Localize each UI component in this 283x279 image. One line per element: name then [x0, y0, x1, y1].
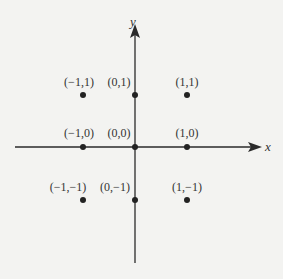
point-label: (0,−1) — [100, 180, 130, 195]
point-dot — [132, 144, 138, 150]
point-label: (−1,1) — [64, 75, 94, 90]
point-label: (−1,−1) — [50, 180, 87, 195]
point-label: (1,1) — [176, 75, 199, 90]
point-label: (−1,0) — [64, 126, 94, 141]
point-label: (1,0) — [176, 126, 199, 141]
coordinate-diagram: y x (−1,1) (0,1) (1,1) (−1,0) (0,0) (1,0… — [0, 0, 283, 279]
x-axis-label: x — [265, 139, 271, 155]
point-dot — [184, 144, 190, 150]
y-axis-label: y — [130, 14, 136, 30]
point-dot — [132, 92, 138, 98]
point-label: (1,−1) — [172, 180, 202, 195]
point-dot — [184, 92, 190, 98]
point-dot — [132, 197, 138, 203]
point-label: (0,1) — [108, 75, 131, 90]
point-dot — [184, 197, 190, 203]
point-dot — [80, 197, 86, 203]
point-dot — [80, 92, 86, 98]
point-dot — [80, 144, 86, 150]
axes-graphic — [0, 0, 283, 279]
point-label: (0,0) — [108, 126, 131, 141]
